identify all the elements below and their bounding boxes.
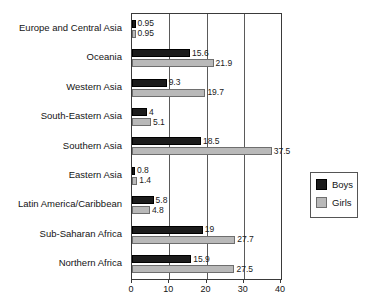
bar-row: 9.319.7 bbox=[132, 73, 281, 102]
bar-girls bbox=[132, 30, 136, 38]
bar-row: 18.537.5 bbox=[132, 132, 281, 161]
x-tick bbox=[243, 279, 244, 283]
category-label: Eastern Asia bbox=[69, 170, 122, 180]
bar-boys bbox=[132, 196, 154, 204]
legend-item-girls: Girls bbox=[316, 197, 352, 208]
bar-value-label: 15.6 bbox=[192, 49, 209, 58]
bar-value-label: 4 bbox=[149, 108, 154, 117]
bar-value-label: 37.5 bbox=[274, 147, 291, 156]
category-label: Oceania bbox=[87, 52, 122, 62]
bar-row: 45.1 bbox=[132, 102, 281, 131]
category-label: Western Asia bbox=[66, 82, 122, 92]
bar-boys bbox=[132, 137, 201, 145]
bar-value-label: 0.95 bbox=[138, 29, 155, 38]
x-tick-label: 10 bbox=[163, 284, 173, 294]
bar-girls bbox=[132, 177, 137, 185]
bar-chart: Europe and Central AsiaOceaniaWestern As… bbox=[0, 0, 374, 307]
bar-girls bbox=[132, 206, 150, 214]
x-tick bbox=[280, 279, 281, 283]
x-tick-label: 30 bbox=[238, 284, 248, 294]
bar-value-label: 4.8 bbox=[152, 206, 164, 215]
bar-value-label: 9.3 bbox=[169, 78, 181, 87]
category-label: Sub-Saharan Africa bbox=[40, 229, 122, 239]
bar-girls bbox=[132, 89, 205, 97]
category-axis-labels: Europe and Central AsiaOceaniaWestern As… bbox=[0, 13, 126, 278]
x-tick bbox=[206, 279, 207, 283]
bar-value-label: 15.9 bbox=[193, 255, 210, 264]
x-tick-label: 0 bbox=[128, 284, 133, 294]
bar-boys bbox=[132, 226, 203, 234]
bar-value-label: 27.7 bbox=[237, 235, 254, 244]
bar-value-label: 0.95 bbox=[138, 19, 155, 28]
bar-girls bbox=[132, 147, 272, 155]
category-label: Europe and Central Asia bbox=[19, 23, 122, 33]
legend-swatch-boys bbox=[316, 179, 327, 190]
bar-boys bbox=[132, 79, 167, 87]
bar-row: 0.950.95 bbox=[132, 14, 281, 43]
bar-boys bbox=[132, 167, 135, 175]
bar-value-label: 5.8 bbox=[156, 196, 168, 205]
bar-value-label: 19.7 bbox=[207, 88, 224, 97]
legend-swatch-girls bbox=[316, 197, 327, 208]
x-tick-label: 20 bbox=[200, 284, 210, 294]
bar-boys bbox=[132, 108, 147, 116]
bar-girls bbox=[132, 236, 235, 244]
category-label: Southern Asia bbox=[63, 141, 122, 151]
x-tick-label: 40 bbox=[275, 284, 285, 294]
bar-value-label: 21.9 bbox=[216, 59, 233, 68]
bar-value-label: 1.4 bbox=[139, 176, 151, 185]
legend-label-girls: Girls bbox=[332, 198, 352, 208]
bar-row: 15.621.9 bbox=[132, 43, 281, 72]
x-tick bbox=[168, 279, 169, 283]
chart-legend: Boys Girls bbox=[310, 172, 358, 218]
bar-value-label: 5.1 bbox=[153, 118, 165, 127]
x-axis: 010203040 bbox=[131, 279, 281, 303]
bar-boys bbox=[132, 255, 191, 263]
bar-boys bbox=[132, 49, 190, 57]
bar-boys bbox=[132, 20, 136, 28]
bar-girls bbox=[132, 265, 234, 273]
legend-label-boys: Boys bbox=[332, 180, 353, 190]
legend-item-boys: Boys bbox=[316, 179, 353, 190]
bar-girls bbox=[132, 59, 214, 67]
bar-value-label: 0.8 bbox=[137, 166, 149, 175]
bar-value-label: 19 bbox=[205, 225, 214, 234]
bar-value-label: 18.5 bbox=[203, 137, 220, 146]
bar-row: 1927.7 bbox=[132, 220, 281, 249]
bar-value-label: 27.5 bbox=[236, 265, 253, 274]
category-label: Northern Africa bbox=[59, 258, 122, 268]
x-tick bbox=[131, 279, 132, 283]
category-label: South-Eastern Asia bbox=[41, 111, 122, 121]
bar-row: 5.84.8 bbox=[132, 191, 281, 220]
bar-row: 0.81.4 bbox=[132, 161, 281, 190]
bar-row: 15.927.5 bbox=[132, 250, 281, 279]
bar-girls bbox=[132, 118, 151, 126]
category-label: Latin America/Caribbean bbox=[18, 199, 122, 209]
plot-area: 0.950.9515.621.99.319.745.118.537.50.81.… bbox=[131, 13, 282, 280]
